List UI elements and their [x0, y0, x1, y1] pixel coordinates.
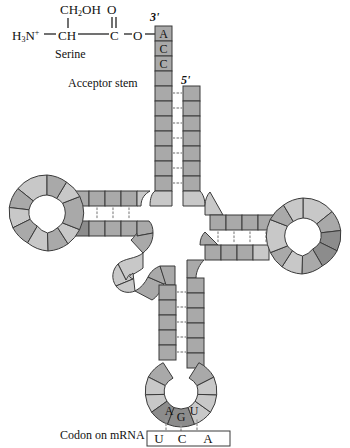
t-arm-hydrogen-bonds: [218, 232, 266, 243]
anticodon-stem-hydrogen-bonds: [177, 292, 186, 352]
d-arm-lower-strand: [73, 221, 153, 236]
codon-nt-0: U: [154, 431, 164, 446]
d-loop: [9, 175, 83, 251]
anticodon-nt-1: G: [177, 410, 186, 424]
codon-nt-1: C: [178, 431, 187, 446]
anticodon-nt-0: A: [165, 404, 174, 418]
acceptor-nt-2: C: [159, 57, 167, 71]
t-arm-upper-strand: [205, 192, 274, 230]
acceptor-nt-0: A: [159, 27, 168, 41]
d-arm-hydrogen-bonds: [81, 208, 129, 219]
acceptor-end-letters: A C C: [159, 27, 168, 71]
mrna-codon-box: U C A: [147, 431, 230, 446]
t-loop: [267, 198, 341, 274]
trna-diagram: .nt { stroke:#3a3a3a; stroke-width:1; } …: [0, 0, 350, 448]
anticodon-stem-right-strand: [187, 260, 204, 368]
figure-root: CH2OH O H3N+ CH C O Serine 3' 5' Accepto…: [0, 0, 350, 448]
anticodon-nt-2: U: [190, 404, 199, 418]
anticodon-stem-left-strand: [159, 285, 176, 360]
acceptor-stem-hydrogen-bonds: [173, 93, 182, 183]
amino-acid-bonds: [44, 17, 155, 34]
codon-nt-2: A: [203, 431, 213, 446]
acceptor-nt-1: C: [159, 42, 167, 56]
acceptor-stem-5prime-strand: [183, 86, 205, 206]
d-arm-upper-strand: [73, 191, 150, 206]
